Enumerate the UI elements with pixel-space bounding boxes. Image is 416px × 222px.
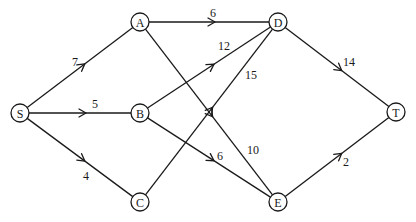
node-b: B xyxy=(131,104,149,122)
capacity-label-s-c: 4 xyxy=(83,169,89,183)
node-e: E xyxy=(269,193,287,211)
edge-s-c xyxy=(27,118,133,196)
edge-line xyxy=(285,117,389,196)
node-label: B xyxy=(136,107,144,121)
capacity-label-a-d: 6 xyxy=(210,6,216,20)
node-label: D xyxy=(274,16,283,30)
arrow-head-icon xyxy=(206,64,214,71)
edge-line xyxy=(27,27,133,107)
edge-b-e xyxy=(148,118,271,197)
edge-a-d xyxy=(149,18,269,26)
node-t: T xyxy=(387,103,405,121)
capacity-label-d-t: 14 xyxy=(343,55,355,69)
capacity-label-c-d: 15 xyxy=(245,68,257,82)
edge-s-a xyxy=(27,27,133,107)
node-label: T xyxy=(392,106,400,120)
node-label: A xyxy=(136,16,145,30)
node-s: S xyxy=(11,104,29,122)
edge-line xyxy=(27,118,133,196)
capacity-label-a-e: 10 xyxy=(247,143,259,157)
edge-d-t xyxy=(285,27,389,106)
edge-s-b xyxy=(29,109,131,117)
capacity-label-s-b: 5 xyxy=(92,97,98,111)
capacity-label-e-t: 2 xyxy=(343,155,349,169)
capacity-label-b-d: 12 xyxy=(218,39,230,53)
node-label: S xyxy=(17,107,24,121)
edge-e-t xyxy=(285,117,389,196)
node-a: A xyxy=(131,13,149,31)
edge-line xyxy=(285,27,389,106)
edges xyxy=(27,18,389,197)
node-label: E xyxy=(274,196,281,210)
flow-network-diagram: 75461012615142 SABCDET xyxy=(0,0,416,222)
capacity-labels: 75461012615142 xyxy=(72,6,355,183)
nodes: SABCDET xyxy=(11,13,405,211)
arrow-head-icon xyxy=(206,154,214,161)
capacity-label-s-a: 7 xyxy=(72,55,78,69)
node-c: C xyxy=(131,193,149,211)
capacity-label-b-e: 6 xyxy=(217,149,223,163)
edge-line xyxy=(148,118,271,197)
node-d: D xyxy=(269,13,287,31)
node-label: C xyxy=(136,196,144,210)
